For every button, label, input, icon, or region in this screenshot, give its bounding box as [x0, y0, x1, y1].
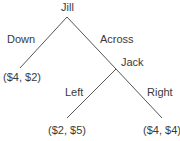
edge-label-down: Down — [7, 33, 35, 45]
payoff-left: ($2, $5) — [48, 124, 86, 136]
edge-label-across: Across — [100, 33, 134, 45]
payoff-right: ($4, $4) — [143, 124, 180, 136]
payoff-down: ($4, $2) — [3, 71, 41, 83]
node-label-jill: Jill — [61, 1, 74, 13]
edge-label-left: Left — [65, 86, 83, 98]
node-label-jack: Jack — [121, 56, 144, 68]
edge-label-right: Right — [147, 86, 173, 98]
